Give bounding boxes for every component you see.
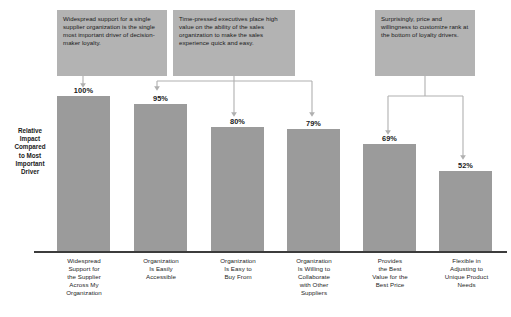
category-line: with Other [278, 281, 350, 289]
bar-value-3: 80% [211, 117, 264, 126]
category-line: Needs [429, 281, 504, 289]
y-axis-label-line: Impact [6, 135, 54, 143]
chart-figure: Widespread support for a single supplier… [0, 0, 511, 317]
category-line: Collaborate [278, 273, 350, 281]
x-axis-category-label-3: Organization Is Easy to Buy From [202, 257, 274, 281]
y-axis-label-line: to Most [6, 152, 54, 160]
x-axis-category-label-5: Provides the Best Value for the Best Pri… [354, 257, 426, 289]
bar-value-1: 100% [57, 86, 110, 95]
category-line: Widespread [48, 257, 120, 265]
category-line: the Best [354, 265, 426, 273]
y-axis-label-line: Relative [6, 127, 54, 135]
bar-6 [439, 171, 492, 252]
category-line: Is Easily [125, 265, 197, 273]
category-line: Is Easy to [202, 265, 274, 273]
bar-value-4: 79% [287, 119, 340, 128]
category-line: Across My [48, 281, 120, 289]
category-line: Best Price [354, 281, 426, 289]
category-line: Flexible in [429, 257, 504, 265]
y-axis-label-line: Driver [6, 168, 54, 176]
bar-4 [287, 129, 340, 252]
x-axis-category-label-2: Organization Is Easily Accessible [125, 257, 197, 281]
plot-area: Relative Impact Compared to Most Importa… [0, 0, 511, 317]
bar-value-6: 52% [439, 161, 492, 170]
category-line: Support for [48, 265, 120, 273]
category-line: Organization [125, 257, 197, 265]
bar-5 [363, 144, 416, 252]
bar-3 [211, 127, 264, 252]
x-axis-line [34, 251, 507, 253]
category-line: Organization [202, 257, 274, 265]
bar-1 [57, 96, 110, 252]
category-line: the Supplier [48, 273, 120, 281]
bar-value-2: 95% [134, 94, 187, 103]
category-line: Accessible [125, 273, 197, 281]
category-line: Unique Product [429, 273, 504, 281]
x-axis-category-label-4: Organization Is Willing to Collaborate w… [278, 257, 350, 297]
x-axis-category-label-6: Flexible in Adjusting to Unique Product … [429, 257, 504, 289]
y-axis-label: Relative Impact Compared to Most Importa… [6, 127, 54, 176]
bar-2 [134, 104, 187, 252]
category-line: Value for the [354, 273, 426, 281]
y-axis-label-line: Important [6, 160, 54, 168]
x-axis-category-label-1: Widespread Support for the Supplier Acro… [48, 257, 120, 297]
y-axis-label-line: Compared [6, 143, 54, 151]
category-line: Suppliers [278, 289, 350, 297]
category-line: Organization [278, 257, 350, 265]
category-line: Provides [354, 257, 426, 265]
category-line: Buy From [202, 273, 274, 281]
category-line: Adjusting to [429, 265, 504, 273]
category-line: Organization [48, 289, 120, 297]
category-line: Is Willing to [278, 265, 350, 273]
bar-value-5: 69% [363, 134, 416, 143]
